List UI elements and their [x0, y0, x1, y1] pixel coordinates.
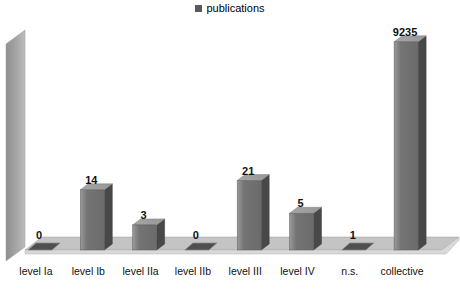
bar-level-iii: 21level III: [229, 165, 270, 277]
data-label-collective: 9235: [393, 26, 417, 38]
data-label-level-iii: 21: [242, 165, 254, 177]
data-label-n-s: 1: [350, 229, 356, 241]
bar-face-front: [290, 213, 314, 250]
bar-level-ib: 14level Ib: [72, 174, 113, 277]
data-label-level-ia: 0: [36, 229, 42, 241]
bar-face-side: [314, 207, 322, 250]
category-label-level-iii: level III: [229, 265, 262, 277]
chart-canvas: publications 0level Ia14level Ib3level I…: [0, 0, 460, 289]
category-label-collective: collective: [381, 265, 424, 277]
bar-face-side: [104, 184, 112, 250]
bar-face-front: [394, 42, 418, 250]
data-label-level-iv: 5: [297, 197, 303, 209]
data-label-level-iib: 0: [193, 229, 199, 241]
chart-wall: [6, 30, 25, 261]
data-label-level-iia: 3: [141, 209, 147, 221]
bar-face-front: [80, 190, 104, 250]
category-label-level-ib: level Ib: [72, 265, 105, 277]
category-label-level-iia: level IIa: [123, 265, 159, 277]
bar-face-side: [418, 36, 426, 250]
category-label-n-s: n.s.: [341, 265, 358, 277]
bar-chart-3d: 0level Ia14level Ib3level IIa0level IIb2…: [0, 0, 460, 289]
bar-face-front: [237, 181, 261, 250]
bar-face-front: [133, 225, 157, 250]
category-label-level-iib: level IIb: [175, 265, 211, 277]
category-label-level-ia: level Ia: [19, 265, 52, 277]
data-label-level-ib: 14: [85, 174, 98, 186]
category-label-level-iv: level IV: [280, 265, 314, 277]
bar-face-side: [261, 175, 269, 250]
